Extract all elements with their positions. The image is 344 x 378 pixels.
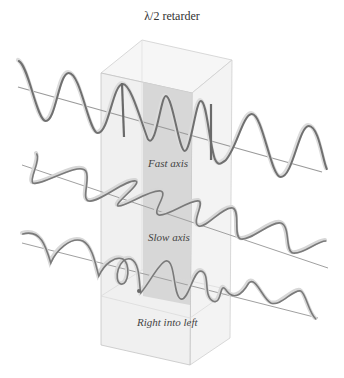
retarder-diagram: λ/2 retarder <box>0 0 344 378</box>
conversion-label: Right into left <box>137 316 198 328</box>
fast-axis-label: Fast axis <box>148 157 188 169</box>
slow-axis-label: Slow axis <box>148 231 190 243</box>
